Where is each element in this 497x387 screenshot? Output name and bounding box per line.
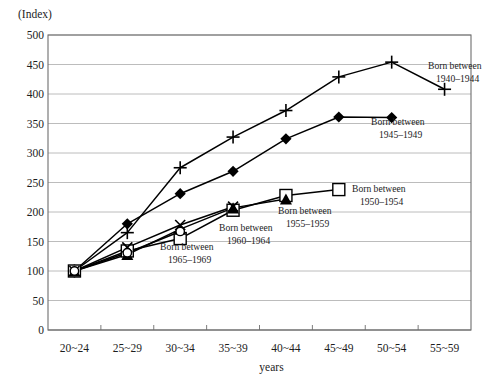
y-axis-tick-label: 200 [4, 206, 44, 218]
annotation-line-1: Born between [352, 183, 406, 194]
y-axis-tick-label: 350 [4, 118, 44, 130]
x-axis-tick-label: 50~54 [377, 342, 406, 354]
data-point-square [333, 184, 345, 196]
x-axis-tick-label: 35~39 [218, 342, 247, 354]
data-point-diamond [227, 166, 238, 177]
data-point-plus [227, 131, 240, 144]
x-axis-tick-label: 30~34 [166, 342, 195, 354]
y-axis-tick-label: 500 [4, 29, 44, 41]
annotation-line-1: Born between [278, 205, 332, 216]
y-axis-tick-label: 400 [4, 88, 44, 100]
annotation-line-2: 1945–1949 [371, 129, 425, 142]
data-point-circle [70, 267, 78, 275]
data-point-plus [279, 104, 292, 117]
x-axis-tick-label: 25~29 [113, 342, 142, 354]
data-point-circle [123, 249, 131, 257]
y-axis-tick-label: 50 [4, 295, 44, 307]
y-axis-tick-label: 150 [4, 236, 44, 248]
annotation-line-2: 1940–1944 [428, 73, 482, 86]
series-annotation: Born between1965–1969 [160, 241, 214, 266]
series-annotation: Born between1940–1944 [428, 60, 482, 85]
annotation-line-2: 1950–1954 [352, 196, 406, 209]
y-axis-tick-label: 300 [4, 147, 44, 159]
y-axis-tick-label: 100 [4, 265, 44, 277]
x-axis-title: years [259, 361, 283, 373]
x-axis-tick-label: 55~59 [430, 342, 459, 354]
series-annotation: Born between1960–1964 [219, 222, 273, 247]
data-point-diamond [175, 188, 186, 199]
annotation-line-1: Born between [219, 222, 273, 233]
annotation-line-2: 1960–1964 [219, 235, 273, 248]
data-point-diamond [333, 111, 344, 122]
y-axis-tick-labels: 500450400350300250200150100500 [0, 0, 44, 387]
x-axis-tick-label: 20~24 [60, 342, 89, 354]
annotation-line-1: Born between [160, 241, 214, 252]
series-annotation: Born between1955–1959 [278, 205, 332, 230]
series-annotation: Born between1950–1954 [352, 183, 406, 208]
annotation-line-1: Born between [428, 60, 482, 71]
y-axis-tick-label: 250 [4, 177, 44, 189]
x-axis-tick-label: 45~49 [324, 342, 353, 354]
annotation-line-2: 1955–1959 [278, 218, 332, 231]
y-axis-tick-label: 450 [4, 59, 44, 71]
annotation-line-1: Born between [371, 116, 425, 127]
data-point-plus [332, 70, 345, 83]
x-axis-tick-label: 40~44 [271, 342, 300, 354]
data-point-plus [385, 56, 398, 69]
y-axis-tick-label: 0 [4, 324, 44, 336]
annotation-line-2: 1965–1969 [160, 254, 214, 267]
index-line-chart: (Index) 500450400350300250200150100500 2… [0, 0, 497, 387]
plot-area [0, 0, 497, 387]
data-point-diamond [280, 133, 291, 144]
series-annotation: Born between1945–1949 [371, 116, 425, 141]
data-point-circle [176, 227, 184, 235]
